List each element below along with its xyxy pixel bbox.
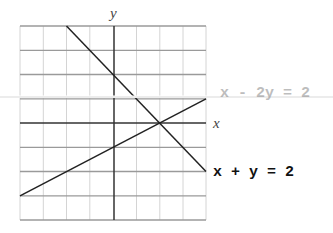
graph-canvas: y x x + y = 2 x - 2y = 2 <box>0 0 333 233</box>
y-axis-label: y <box>108 5 117 21</box>
equation-label-x-minus-2y: x - 2y = 2 <box>220 85 310 102</box>
x-axis-label: x <box>212 115 220 131</box>
equation-label-x-plus-y: x + y = 2 <box>213 164 294 181</box>
